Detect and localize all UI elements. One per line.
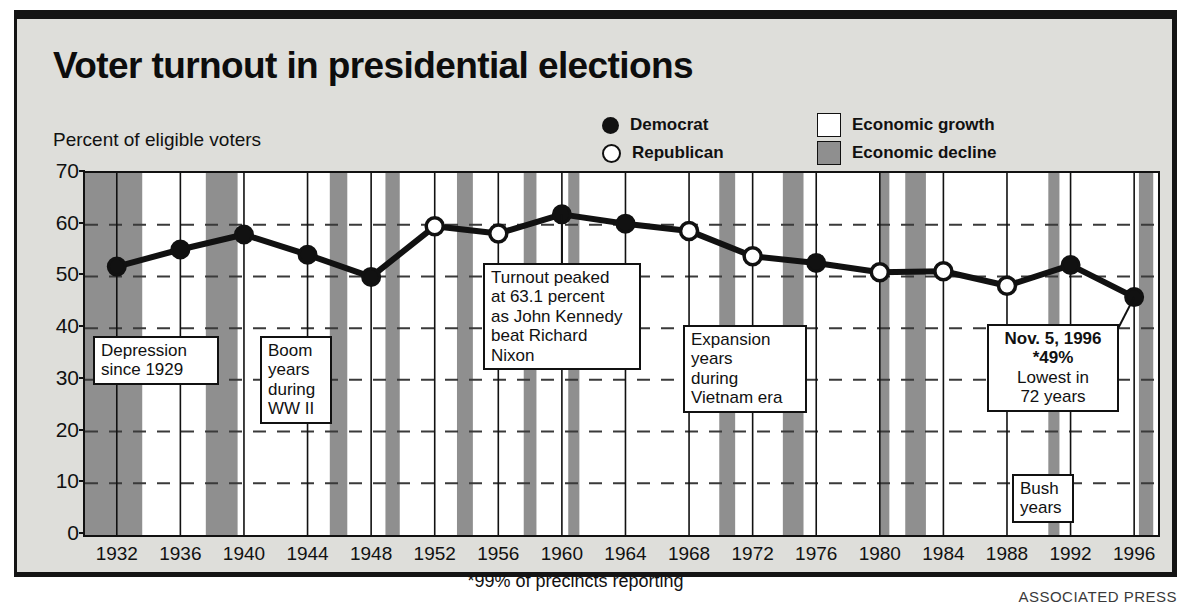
callout-boom-line2: years	[268, 360, 324, 379]
y-tick-label: 70	[56, 160, 79, 181]
callout-boom-line4: WW II	[268, 399, 324, 418]
legend-label-democrat: Democrat	[630, 115, 708, 135]
y-tick-label: 60	[56, 212, 79, 233]
white-square-icon	[817, 113, 841, 137]
callout-latest-line4: 72 years	[995, 387, 1111, 406]
point-democrat	[299, 246, 316, 263]
x-tick-label: 1976	[795, 543, 837, 565]
callout-latest-line2: *49%	[995, 348, 1111, 367]
x-tick-label: 1960	[541, 543, 583, 565]
point-democrat	[1062, 257, 1079, 274]
callout-bush: Bush years	[1012, 474, 1074, 523]
legend-item-decline: Economic decline	[817, 141, 1032, 165]
callout-expansion-line4: Vietnam era	[691, 388, 799, 407]
gray-square-icon	[817, 141, 841, 165]
x-tick-label: 1940	[223, 543, 265, 565]
decline-band	[905, 173, 926, 535]
x-tick-label: 1972	[732, 543, 774, 565]
x-tick-label: 1964	[604, 543, 646, 565]
callout-latest-line1: Nov. 5, 1996	[995, 329, 1111, 348]
legend-label-decline: Economic decline	[852, 143, 997, 163]
y-tick-label: 40	[56, 315, 79, 336]
y-tick-label: 20	[56, 419, 79, 440]
x-tick-label: 1984	[922, 543, 964, 565]
point-republican	[744, 248, 761, 265]
callout-peak-line1: Turnout peaked	[491, 268, 633, 287]
callout-expansion: Expansion years during Vietnam era	[683, 325, 807, 413]
point-republican	[871, 264, 888, 281]
decline-band	[330, 173, 347, 535]
point-republican	[681, 222, 698, 239]
callout-peak-line3: as John Kennedy	[491, 307, 633, 326]
decline-band	[1139, 173, 1153, 535]
point-democrat	[108, 258, 125, 275]
callout-latest: Nov. 5, 1996 *49% Lowest in 72 years	[987, 324, 1119, 412]
point-democrat	[363, 268, 380, 285]
callout-depression: Depression since 1929	[93, 336, 219, 385]
open-circle-icon	[602, 144, 621, 163]
x-tick-label: 1948	[350, 543, 392, 565]
callout-depression-line2: since 1929	[101, 360, 211, 379]
y-axis-title: Percent of eligible voters	[53, 129, 261, 151]
callout-peak-line5: Nixon	[491, 346, 633, 365]
decline-band	[880, 173, 890, 535]
callout-expansion-line3: during	[691, 369, 799, 388]
x-tick-label: 1988	[986, 543, 1028, 565]
credit-line: ASSOCIATED PRESS	[0, 588, 1177, 605]
legend-item-democrat: Democrat	[602, 115, 817, 135]
callout-boom: Boom years during WW II	[260, 336, 332, 424]
callout-boom-line1: Boom	[268, 341, 324, 360]
point-republican	[426, 218, 443, 235]
x-tick-label: 1980	[859, 543, 901, 565]
callout-latest-line3: Lowest in	[995, 368, 1111, 387]
legend-row-1: Democrat Economic growth	[602, 111, 1072, 139]
point-democrat	[172, 241, 189, 258]
x-tick-label: 1968	[668, 543, 710, 565]
y-tick-label: 50	[56, 263, 79, 284]
legend-item-republican: Republican	[602, 143, 817, 163]
point-republican	[935, 263, 952, 280]
legend-row-2: Republican Economic decline	[602, 139, 1072, 167]
x-tick-label: 1944	[286, 543, 328, 565]
legend-label-growth: Economic growth	[852, 115, 995, 135]
top-rule	[14, 10, 1177, 19]
callout-bush-line2: years	[1020, 498, 1066, 517]
x-tick-label: 1956	[477, 543, 519, 565]
chart-panel: Voter turnout in presidential elections …	[14, 19, 1177, 577]
callout-peak: Turnout peaked at 63.1 percent as John K…	[483, 263, 641, 370]
y-axis-labels: 010203040506070	[31, 159, 79, 551]
callout-peak-line4: beat Richard	[491, 326, 633, 345]
legend: Democrat Economic growth Republican Econ…	[602, 111, 1072, 167]
x-tick-label: 1996	[1113, 543, 1155, 565]
callout-boom-line3: during	[268, 380, 324, 399]
callout-depression-line1: Depression	[101, 341, 211, 360]
chart-page: Voter turnout in presidential elections …	[0, 0, 1191, 610]
point-republican	[490, 225, 507, 242]
filled-circle-icon	[602, 117, 619, 134]
y-tick-label: 30	[56, 367, 79, 388]
callout-bush-line1: Bush	[1020, 479, 1066, 498]
point-democrat	[617, 215, 634, 232]
y-tick-label: 0	[67, 522, 79, 543]
legend-item-growth: Economic growth	[817, 113, 1032, 137]
x-tick-label: 1992	[1049, 543, 1091, 565]
callout-expansion-line1: Expansion	[691, 330, 799, 349]
legend-label-republican: Republican	[632, 143, 724, 163]
x-tick-label: 1932	[96, 543, 138, 565]
x-tick-label: 1936	[159, 543, 201, 565]
y-tick-label: 10	[56, 470, 79, 491]
x-tick-label: 1952	[414, 543, 456, 565]
callout-peak-line2: at 63.1 percent	[491, 287, 633, 306]
decline-band	[385, 173, 399, 535]
point-democrat	[808, 254, 825, 271]
page-title: Voter turnout in presidential elections	[53, 45, 693, 87]
point-republican	[998, 277, 1015, 294]
callout-expansion-line2: years	[691, 349, 799, 368]
x-axis-labels: 1932193619401944194819521956196019641968…	[83, 543, 1162, 569]
point-democrat	[235, 226, 252, 243]
